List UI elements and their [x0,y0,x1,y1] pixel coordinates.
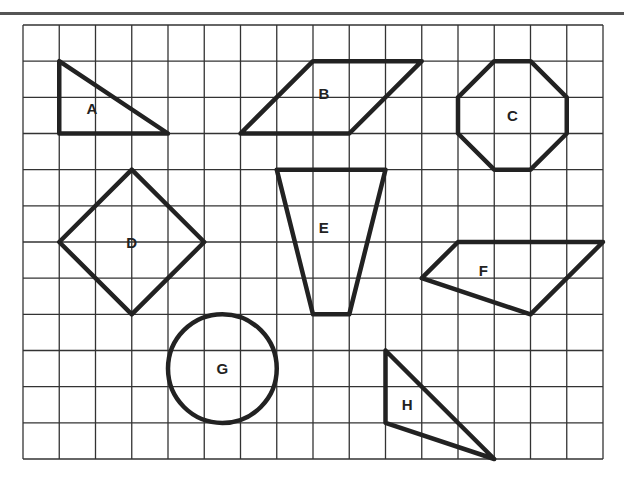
shape-label-b: B [318,85,329,102]
shape-label-g: G [217,360,229,377]
shape-label-a: A [86,100,97,117]
shape-label-f: F [479,262,488,279]
shape-label-h: H [402,396,413,413]
shape-label-c: C [507,107,518,124]
shape-grid-figure: ABCDEFGH [0,0,624,486]
shape-label-e: E [319,219,329,236]
shapes: ABCDEFGH [59,61,603,459]
shape-label-d: D [126,234,137,251]
